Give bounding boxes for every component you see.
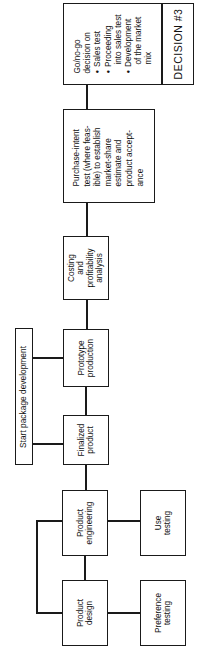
text-line: profitability — [86, 248, 95, 287]
connector-engineering-design — [84, 556, 86, 580]
start-package-label: Start package development — [19, 346, 28, 448]
connector-prototype-finalized — [85, 387, 87, 415]
text-line: Costing — [67, 248, 76, 287]
connector-loop-vertical — [36, 520, 38, 614]
finalized-box: Finalized product — [63, 415, 109, 465]
connector-loop-bottom — [36, 612, 62, 614]
decision-bullet-development-cont: of the market — [134, 14, 144, 73]
connector-costing-prototype — [86, 300, 88, 329]
text-line: Product — [76, 502, 85, 545]
decision-text: Go/no-go decision on Sales test Proceedi… — [73, 14, 155, 73]
product-engineering-box: Product engineering — [62, 490, 108, 556]
decision-heading-line: decision on — [83, 14, 93, 73]
text-line: testing — [163, 511, 172, 535]
text-line: product — [86, 424, 95, 457]
prototype-box: Prototype production — [63, 329, 109, 387]
connector-finalized-engineering — [85, 465, 87, 490]
text-line: analysis — [95, 248, 104, 287]
cropped-caption-fragment — [0, 430, 6, 540]
connector-purchase-costing — [86, 203, 88, 236]
text-line: Preference — [154, 593, 163, 633]
purchase-intent-box: Purchase-intent test (where feas- ible) … — [63, 109, 155, 203]
text-line: Prototype — [77, 339, 86, 377]
text-line: testing — [163, 593, 172, 633]
connector-design-preference — [108, 612, 140, 614]
costing-text: Costing and profitability analysis — [67, 248, 105, 287]
connector-package-prototype — [33, 357, 63, 359]
purchase-intent-text: Purchase-intent test (where feas- ible) … — [72, 126, 146, 187]
decision-3-box: Go/no-go decision on Sales test Proceedi… — [63, 3, 194, 85]
costing-box: Costing and profitability analysis — [63, 236, 109, 300]
connector-package-finalized — [33, 443, 63, 445]
connector-engineering-use-testing — [108, 520, 140, 522]
text-line: Finalized — [77, 424, 86, 457]
product-design-box: Product design — [62, 580, 108, 646]
start-package-box: Start package development — [15, 328, 33, 465]
text-line: Use — [154, 511, 163, 535]
decision-label: DECISION #3 — [172, 9, 184, 80]
text-line: Purchase-intent — [72, 126, 83, 187]
decision-bullet-development: Development — [124, 14, 134, 73]
decision-label-cell: DECISION #3 — [163, 4, 193, 84]
finalized-text: Finalized product — [77, 424, 96, 457]
decision-bullet-proceeding-cont: into sales test — [114, 14, 124, 73]
decision-bullet-sales-test: Sales test — [93, 14, 103, 73]
decision-bullet-development-cont: mix — [144, 14, 154, 73]
text-line: design — [85, 599, 94, 627]
text-line: ance — [135, 126, 146, 187]
product-engineering-text: Product engineering — [76, 502, 95, 545]
text-line: market-share — [104, 126, 115, 187]
preference-testing-box: Preference testing — [140, 580, 186, 646]
use-testing-text: Use testing — [154, 511, 173, 535]
use-testing-box: Use testing — [140, 490, 186, 556]
text-line: Product — [76, 599, 85, 627]
decision-bullet-proceeding: Proceeding — [103, 14, 113, 73]
text-line: ible) to establish — [93, 126, 104, 187]
connector-decision-purchase — [86, 84, 88, 109]
text-line: and — [77, 248, 86, 287]
text-line: estimate and — [114, 126, 125, 187]
decision-content: Go/no-go decision on Sales test Proceedi… — [64, 4, 163, 84]
prototype-text: Prototype production — [77, 339, 96, 377]
text-line: test (where feas- — [83, 126, 94, 187]
text-line: engineering — [85, 502, 94, 545]
decision-heading-line: Go/no-go — [73, 14, 83, 73]
product-design-text: Product design — [76, 599, 95, 627]
text-line: production — [86, 339, 95, 377]
text-line: product accept- — [125, 126, 136, 187]
connector-loop-top — [36, 520, 62, 522]
preference-testing-text: Preference testing — [154, 593, 173, 633]
